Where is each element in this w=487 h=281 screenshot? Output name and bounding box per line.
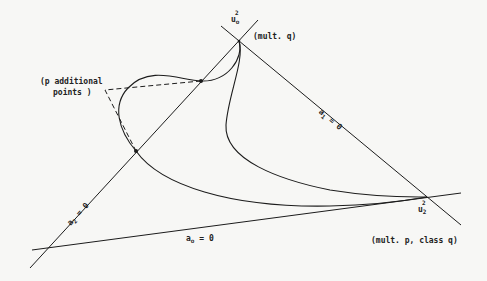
point-lower xyxy=(134,149,138,153)
line-a2 xyxy=(30,20,258,268)
curve-outer xyxy=(119,41,427,206)
vertex-u0-note: (mult. q) xyxy=(253,33,296,41)
diagram-canvas: 2 uo (mult. q) 2 u2 (mult. p, class q) (… xyxy=(0,0,487,281)
annotation-line1: (p additional xyxy=(40,78,103,86)
annotation-line2: points ) xyxy=(53,89,92,97)
line-a0-label: ao = 0 xyxy=(186,235,214,243)
vertex-u2-note: (mult. p, class q) xyxy=(371,237,458,245)
vertex-u0 xyxy=(238,40,241,43)
vertex-u2-label: 2 u2 xyxy=(418,206,426,214)
vertex-u0-label: 2 uo xyxy=(231,16,239,24)
point-upper xyxy=(199,79,203,83)
